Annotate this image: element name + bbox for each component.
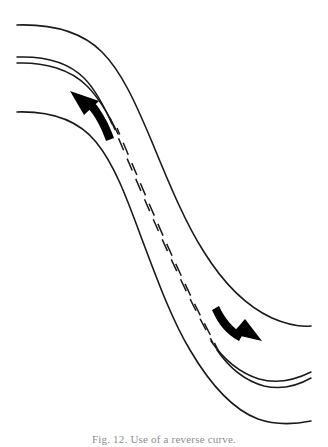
figure-caption: Fig. 12. Use of a reverse curve.: [0, 433, 328, 446]
diagram-background: [0, 0, 328, 447]
figure-container: Fig. 12. Use of a reverse curve.: [0, 0, 328, 447]
roadway-diagram: [0, 0, 328, 447]
